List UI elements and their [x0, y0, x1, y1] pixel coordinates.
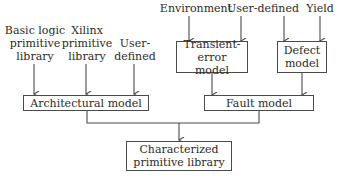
input-environment: Environment [160, 2, 232, 15]
label-line: Xilinx [62, 24, 112, 37]
input-user-defined-right: User-defined [227, 2, 299, 15]
label-line: primitive [62, 37, 112, 50]
label-line: primitive [5, 37, 65, 50]
label-line: defined [114, 50, 156, 63]
box-line: primitive library [133, 156, 224, 169]
input-user-defined-left: User- defined [114, 37, 156, 63]
merge-line [87, 111, 259, 123]
characterized-primitive-library-box: Characterized primitive library [126, 141, 232, 171]
box-line: Defect [284, 44, 321, 57]
input-xilinx-library: Xilinx primitive library [62, 24, 112, 63]
box-line: Transient-error [177, 38, 247, 64]
label-line: library [62, 50, 112, 63]
label-line: User- [114, 37, 156, 50]
label-line: library [5, 50, 65, 63]
input-basic-logic-library: Basic logic primitive library [5, 24, 65, 63]
architectural-model-box: Architectural model [23, 95, 149, 111]
transient-error-model-box: Transient-error model [176, 41, 248, 73]
box-line: model [177, 64, 247, 77]
box-line: Characterized [133, 143, 224, 156]
input-yield: Yield [306, 2, 334, 15]
box-line: model [284, 57, 321, 70]
label-line: Basic logic [5, 24, 65, 37]
fault-model-box: Fault model [204, 95, 314, 111]
defect-model-box: Defect model [277, 41, 327, 73]
